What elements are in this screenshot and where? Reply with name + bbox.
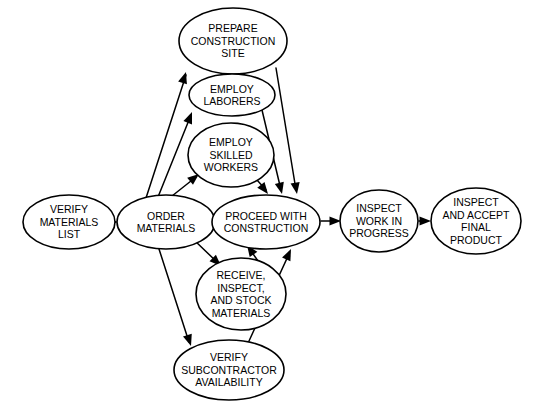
arrow-head-icon	[183, 112, 192, 124]
flowchart-diagram: VERIFYMATERIALSLISTORDERMATERIALSPREPARE…	[0, 0, 547, 411]
edge-proceed-to-inspect-work	[321, 216, 341, 225]
arrow-head-icon	[282, 249, 291, 261]
arrow-head-icon	[275, 182, 284, 194]
node-proceed-with-construction[interactable]: PROCEED WITHCONSTRUCTION	[212, 195, 320, 249]
node-label-line: MATERIALS	[137, 222, 196, 234]
node-label-line: RECEIVE,	[216, 269, 265, 281]
node-label-line: WORK IN	[356, 215, 402, 227]
edge-order-to-employ-skilled	[172, 174, 199, 196]
node-order-materials[interactable]: ORDERMATERIALS	[117, 195, 215, 249]
node-label-line: INSPECT	[453, 196, 499, 208]
node-label-line: VERIFY	[210, 351, 248, 363]
node-label-line: WORKERS	[204, 161, 258, 173]
node-label-line: VERIFY	[50, 203, 88, 215]
edge-line	[276, 68, 296, 190]
arrow-head-icon	[291, 182, 300, 194]
node-receive-inspect-stock-materials[interactable]: RECEIVE,INSPECT,AND STOCKMATERIALS	[196, 258, 286, 330]
node-label-line: SUBCONTRACTOR	[181, 364, 277, 376]
node-inspect-and-accept-final-product[interactable]: INSPECTAND ACCEPTFINALPRODUCT	[431, 188, 521, 254]
node-label-line: FINAL	[461, 221, 491, 233]
node-label-line: LIST	[58, 228, 81, 240]
edge-order-to-receive-inspect	[194, 240, 221, 266]
node-verify-materials-list[interactable]: VERIFYMATERIALSLIST	[23, 195, 115, 249]
node-label-line: CONSTRUCTION	[191, 35, 276, 47]
node-label: EMPLOYLABORERS	[203, 83, 260, 108]
node-label-line: PRODUCT	[450, 234, 503, 246]
edge-line	[159, 249, 189, 342]
node-label-line: PROCEED WITH	[225, 210, 307, 222]
node-label-line: AVAILABILITY	[195, 376, 262, 388]
node-employ-laborers[interactable]: EMPLOYLABORERS	[189, 74, 275, 116]
diagram-canvas: VERIFYMATERIALSLISTORDERMATERIALSPREPARE…	[0, 0, 547, 411]
node-label-line: EMPLOY	[210, 83, 254, 95]
node-label-line: MATERIALS	[40, 216, 99, 228]
edge-order-to-verify-subcontractor	[159, 249, 192, 346]
node-label-line: SITE	[221, 47, 244, 59]
nodes-layer: VERIFYMATERIALSLISTORDERMATERIALSPREPARE…	[23, 8, 521, 400]
node-label-line: PROGRESS	[349, 227, 409, 239]
node-label-line: AND STOCK	[210, 294, 271, 306]
node-label-line: CONSTRUCTION	[224, 222, 309, 234]
edge-line	[146, 75, 186, 198]
arrow-head-icon	[178, 72, 187, 84]
node-prepare-construction-site[interactable]: PREPARECONSTRUCTIONSITE	[179, 8, 287, 74]
node-label-line: EMPLOY	[209, 136, 253, 148]
node-label-line: INSPECT,	[217, 282, 264, 294]
node-label-line: AND ACCEPT	[442, 209, 510, 221]
arrow-head-icon	[420, 216, 432, 225]
node-label-line: ORDER	[147, 210, 185, 222]
edge-inspect-work-to-final-product	[419, 216, 431, 225]
node-label-line: PREPARE	[208, 22, 257, 34]
arrow-head-icon	[183, 334, 192, 346]
edge-order-to-prepare-site	[146, 72, 187, 198]
arrow-head-icon	[257, 182, 268, 194]
node-label-line: INSPECT	[356, 202, 402, 214]
node-label: INSPECTWORK INPROGRESS	[349, 202, 409, 239]
node-label: RECEIVE,INSPECT,AND STOCKMATERIALS	[210, 269, 271, 319]
node-label: PROCEED WITHCONSTRUCTION	[224, 210, 309, 235]
node-label-line: SKILLED	[209, 149, 253, 161]
edge-prepare-site-to-proceed	[276, 68, 300, 194]
node-verify-subcontractor-availability[interactable]: VERIFYSUBCONTRACTORAVAILABILITY	[174, 340, 284, 400]
node-employ-skilled-workers[interactable]: EMPLOYSKILLEDWORKERS	[188, 123, 274, 187]
node-label-line: MATERIALS	[212, 307, 271, 319]
node-label: EMPLOYSKILLEDWORKERS	[204, 136, 258, 173]
node-label-line: LABORERS	[203, 95, 260, 107]
edge-employ-skilled-to-proceed	[257, 180, 268, 194]
node-inspect-work-in-progress[interactable]: INSPECTWORK INPROGRESS	[340, 190, 418, 252]
